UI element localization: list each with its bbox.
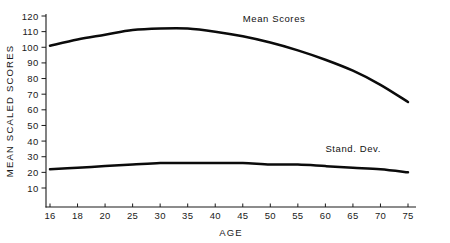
x-axis-tick-label: 30 [155, 210, 166, 221]
y-axis-tick-label: 10 [27, 183, 38, 194]
mean-scores-series-label: Mean Scores [243, 13, 306, 24]
x-axis-title: AGE [219, 227, 243, 238]
y-axis-ticks [42, 16, 47, 188]
y-axis-tick-label: 100 [22, 42, 39, 53]
x-axis-tick-label: 50 [265, 210, 276, 221]
y-axis-tick-label: 110 [22, 26, 38, 37]
y-axis-tick-label: 70 [27, 89, 38, 100]
y-axis-tick-label: 80 [27, 73, 38, 84]
x-axis-tick-label: 20 [99, 210, 110, 221]
stand-dev-curve [50, 163, 408, 172]
y-axis-tick-label: 40 [27, 136, 38, 147]
y-axis-tick-label: 30 [27, 151, 38, 162]
chart-container: 102030405060708090100110120 161820253035… [0, 0, 450, 243]
y-axis-tick-label: 60 [27, 104, 38, 115]
y-axis-title: MEAN SCALED SCORES [4, 45, 15, 177]
x-axis-tick-labels: 1618202530354045505560657075 [44, 210, 413, 221]
x-axis-tick-label: 40 [210, 210, 221, 221]
y-axis-tick-label: 120 [22, 11, 39, 22]
line-chart: 102030405060708090100110120 161820253035… [0, 0, 450, 243]
y-axis-tick-labels: 102030405060708090100110120 [22, 11, 39, 194]
x-axis-tick-label: 55 [292, 210, 303, 221]
x-axis-tick-label: 16 [44, 210, 55, 221]
x-axis-tick-label: 18 [72, 210, 83, 221]
stand-dev-series-label: Stand. Dev. [325, 143, 381, 154]
x-axis-tick-label: 75 [402, 210, 413, 221]
x-axis-tick-label: 45 [237, 210, 248, 221]
x-axis-tick-label: 70 [375, 210, 386, 221]
x-axis-tick-label: 35 [182, 210, 193, 221]
mean-scores-curve [50, 28, 408, 102]
x-axis-tick-label: 65 [347, 210, 358, 221]
y-axis-tick-label: 20 [27, 167, 38, 178]
x-axis-tick-label: 60 [320, 210, 331, 221]
y-axis-tick-label: 50 [27, 120, 38, 131]
x-axis-tick-label: 25 [127, 210, 138, 221]
y-axis-tick-label: 90 [27, 57, 38, 68]
